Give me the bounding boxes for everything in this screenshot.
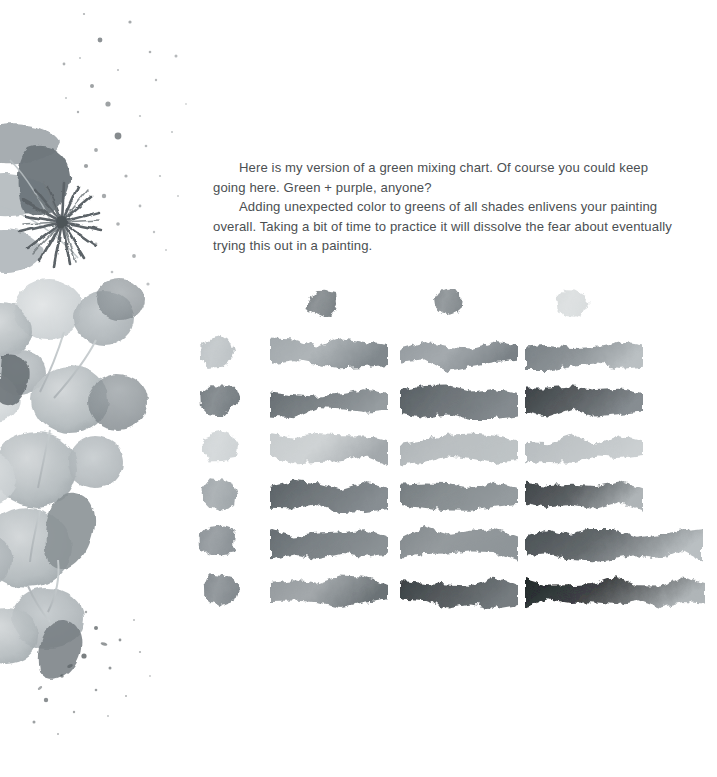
stroke-r5-c3	[525, 523, 703, 563]
pointed-leaf-group	[0, 124, 70, 272]
eucalyptus-watercolor-illustration	[0, 0, 200, 740]
header-swatch-2	[430, 289, 466, 317]
stroke-r6-c2	[400, 571, 518, 611]
stroke-r2-c1	[270, 381, 388, 421]
stroke-r4-c1	[270, 475, 388, 515]
stroke-r6-c1	[270, 571, 388, 611]
paint-splatter-upper	[63, 13, 187, 286]
paragraph-1: Here is my version of a green mixing cha…	[213, 158, 675, 197]
header-swatch-1	[305, 289, 341, 317]
stroke-r4-c3	[525, 475, 643, 515]
stroke-r1-c2	[400, 333, 518, 373]
stroke-r3-c2	[400, 428, 518, 468]
base-swatch-5	[198, 525, 240, 559]
header-swatch-3	[555, 289, 591, 317]
starburst-seedpod	[20, 182, 102, 266]
stroke-r5-c1	[270, 523, 388, 563]
stroke-r3-c1	[270, 428, 388, 468]
stroke-r2-c2	[400, 381, 518, 421]
branch-stem	[28, 332, 96, 622]
base-swatch-3	[198, 430, 240, 464]
base-swatch-2	[198, 383, 240, 417]
paragraph-2: Adding unexpected color to greens of all…	[213, 197, 675, 256]
stroke-r3-c3	[525, 428, 643, 468]
stroke-r6-c3	[525, 571, 705, 611]
stroke-r4-c2	[400, 475, 518, 515]
base-swatch-6	[198, 573, 240, 607]
round-leaf-group	[0, 279, 148, 680]
base-swatch-4	[198, 477, 240, 511]
stroke-r1-c3	[525, 333, 643, 373]
stroke-r5-c2	[400, 523, 518, 563]
paint-splatter-lower	[33, 611, 151, 735]
stroke-r1-c1	[270, 333, 388, 373]
body-copy: Here is my version of a green mixing cha…	[213, 158, 675, 256]
page-canvas: Here is my version of a green mixing cha…	[0, 0, 717, 777]
stem-lines	[0, 160, 78, 258]
stroke-r2-c3	[525, 381, 643, 421]
green-mixing-chart	[190, 285, 710, 635]
base-swatch-1	[198, 335, 240, 369]
